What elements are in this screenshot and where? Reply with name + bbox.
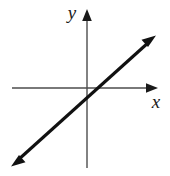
line-segment	[18, 42, 149, 160]
y-axis-arrowhead-icon	[82, 9, 92, 21]
graph-figure: y x	[0, 0, 170, 176]
plotted-line	[11, 36, 156, 167]
x-axis	[12, 83, 158, 93]
coordinate-plane-svg: y x	[0, 0, 170, 176]
x-axis-label: x	[151, 91, 161, 112]
y-axis-label: y	[66, 2, 77, 23]
